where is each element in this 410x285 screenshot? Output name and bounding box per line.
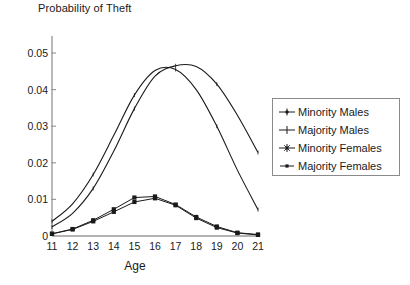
data-point-marker: [91, 219, 95, 223]
data-point-marker: [215, 225, 219, 229]
series-majority-males: [52, 64, 258, 229]
data-point-marker: [153, 196, 157, 200]
x-axis-label: Age: [0, 259, 270, 273]
legend-label: Majority Males: [298, 123, 369, 137]
data-point-marker: [174, 203, 178, 207]
legend-marker-plus-icon: [278, 123, 298, 137]
data-point-marker: [194, 216, 198, 220]
data-point-marker: [132, 200, 136, 204]
data-point-marker: [112, 210, 116, 214]
legend-marker-star-square-icon: [278, 141, 298, 155]
legend-item-minority-females[interactable]: Minority Females: [273, 139, 399, 157]
data-point-marker: [235, 231, 239, 235]
axes: [51, 36, 258, 236]
data-point-marker: [132, 195, 136, 199]
legend-item-majority-males[interactable]: Majority Males: [273, 121, 399, 139]
data-point-marker: [71, 227, 75, 231]
series-lines: [50, 64, 260, 237]
chart-figure: Probability of Theft 00.010.020.030.040.…: [0, 0, 410, 285]
series-majority-females: [50, 196, 260, 237]
legend-label: Minority Females: [298, 141, 382, 155]
legend-marker-plus-dot-icon: [278, 105, 298, 119]
data-point-marker: [256, 233, 260, 237]
legend-item-majority-females[interactable]: Majority Females: [273, 157, 399, 175]
data-point-marker: [50, 232, 54, 236]
legend-label: Majority Females: [298, 159, 382, 173]
chart-legend: Minority Males Majority Males: [272, 98, 400, 176]
series-line: [52, 64, 258, 226]
legend-item-minority-males[interactable]: Minority Males: [273, 103, 399, 121]
legend-label: Minority Males: [298, 105, 369, 119]
legend-marker-square-icon: [278, 159, 298, 173]
